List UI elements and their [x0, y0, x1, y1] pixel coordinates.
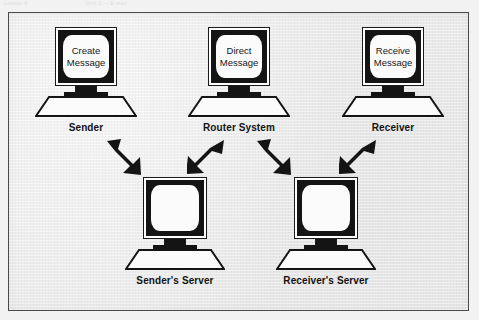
sender-bezel: Create Message [58, 30, 114, 83]
sender-label: Sender [27, 122, 145, 133]
senders-server-label: Sender's Server [116, 275, 234, 286]
sender-monitor: Create Message [55, 27, 117, 86]
senders-server-base [125, 249, 225, 270]
senders-server-screen [151, 185, 199, 231]
node-sender[interactable]: Create Message Sender [27, 27, 145, 133]
scanned-page: Lesson 4 Unit 2 — E-mail Create Message [0, 0, 479, 320]
node-receivers-server[interactable]: Receiver's Server [267, 177, 385, 286]
router-screen-line-1: Direct [227, 45, 252, 57]
node-receiver[interactable]: Receive Message Receiver [334, 27, 452, 133]
sender-screen-line-2: Message [67, 57, 106, 69]
sender-screen: Create Message [63, 35, 109, 78]
receiver-screen: Receive Message [370, 35, 416, 78]
arrow-senders-server-to-router [187, 137, 227, 177]
receivers-server-label: Receiver's Server [267, 275, 385, 286]
router-screen-line-2: Message [220, 57, 259, 69]
receivers-server-monitor [294, 177, 358, 239]
receiver-label: Receiver [334, 122, 452, 133]
senders-server-bezel [146, 180, 204, 236]
senders-server-monitor [143, 177, 207, 239]
receiver-screen-line-2: Message [374, 57, 413, 69]
router-system-label: Router System [180, 122, 298, 133]
receiver-monitor: Receive Message [362, 27, 424, 86]
router-bezel: Direct Message [211, 30, 267, 83]
node-senders-server[interactable]: Sender's Server [116, 177, 234, 286]
scan-header-right-text: Unit 2 — E-mail [86, 0, 127, 7]
receivers-server-bezel [297, 180, 355, 236]
scan-header-left-text: Lesson 4 [4, 0, 28, 7]
arrow-receivers-server-to-receiver [339, 137, 379, 177]
router-screen: Direct Message [216, 35, 262, 78]
receivers-server-screen [302, 185, 350, 231]
receiver-base [342, 96, 444, 117]
receivers-server-base [276, 249, 376, 270]
router-base [188, 96, 290, 117]
sender-base [35, 96, 137, 117]
node-router-system[interactable]: Direct Message Router System [180, 27, 298, 133]
sender-screen-line-1: Create [72, 45, 101, 57]
scan-page-header: Lesson 4 Unit 2 — E-mail [0, 0, 479, 7]
diagram-frame: Create Message Sender Direct Me [8, 12, 469, 311]
receiver-screen-line-1: Receive [376, 45, 410, 57]
arrow-router-to-receivers-server [254, 137, 294, 177]
receiver-bezel: Receive Message [365, 30, 421, 83]
router-monitor: Direct Message [208, 27, 270, 86]
arrow-sender-to-senders-server [104, 137, 144, 177]
